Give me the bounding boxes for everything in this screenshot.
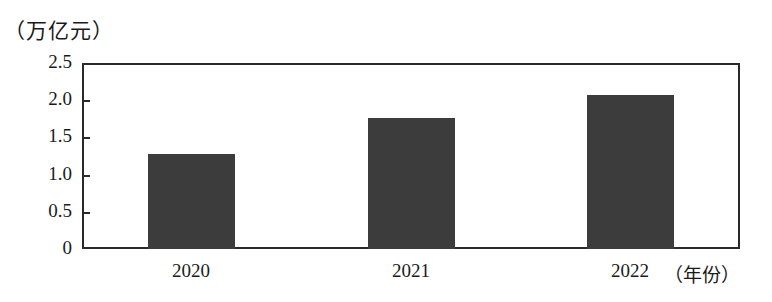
y-tick-mark-1.5 — [84, 137, 90, 139]
bar-2022 — [587, 95, 674, 249]
y-tick-mark-1.0 — [84, 175, 90, 177]
y-tick-label-0: 0 — [32, 237, 72, 259]
x-tick-label-2020: 2020 — [146, 260, 236, 282]
y-tick-label-1.5: 1.5 — [32, 125, 72, 147]
bar-2021 — [368, 118, 455, 249]
y-tick-mark-2.0 — [84, 100, 90, 102]
x-tick-label-2022: 2022 — [585, 260, 675, 282]
x-tick-label-2021: 2021 — [366, 260, 456, 282]
y-tick-mark-0.5 — [84, 212, 90, 214]
y-tick-label-0.5: 0.5 — [32, 200, 72, 222]
x-axis-unit-label: （年份） — [664, 260, 740, 287]
bar-2020 — [148, 154, 235, 249]
y-tick-label-1.0: 1.0 — [32, 163, 72, 185]
y-axis-unit-label: （万亿元） — [4, 14, 114, 44]
y-tick-label-2.0: 2.0 — [32, 88, 72, 110]
y-tick-label-2.5: 2.5 — [32, 51, 72, 73]
